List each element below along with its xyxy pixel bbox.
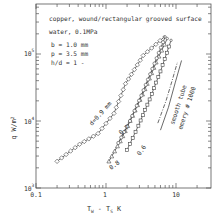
label-d09: d=0.9 mm [88,100,113,127]
data-point-triangle-marker [113,149,117,153]
data-point-square-marker [165,51,168,54]
data-point-circle-marker [151,67,154,70]
data-point-square-marker [134,130,137,133]
series-0-6 [126,39,173,151]
x-axis-label: TW - TS K [87,205,122,214]
x-tick-0.1: 0.1 [30,191,42,199]
boiling-curve-chart: 0.1 1 10 10 3 10 4 10 5 TW - TS K q W/m2… [0,0,216,218]
data-point-diamond-marker [87,137,91,141]
data-point-circle-marker [159,46,162,49]
data-point-diamond-marker [126,77,130,81]
data-point-square-marker [152,87,155,90]
data-point-circle-marker [142,89,145,92]
data-point-diamond-marker [123,82,127,86]
data-point-circle-marker [161,41,164,44]
param-b: b = 1.0 mm [51,41,89,48]
svg-text:3: 3 [32,183,35,188]
param-hd: h/d = 1 - [51,59,85,66]
chart-title: copper, wound/rectangular grooved surfac… [49,15,202,23]
data-point-circle-marker [157,51,160,54]
y-tick-10e5: 10 5 [24,48,35,58]
x-tick-10: 10 [172,191,180,199]
data-point-square-marker [126,148,129,151]
label-06: 0.6 [135,143,147,156]
data-point-triangle-marker [110,154,114,158]
data-point-circle-marker [149,73,152,76]
data-point-square-marker [144,108,147,111]
data-point-circle-marker [131,114,134,117]
data-point-square-marker [150,92,153,95]
data-point-square-marker [161,64,164,67]
data-point-circle-marker [144,83,147,86]
svg-text:5: 5 [32,48,35,53]
data-point-circle-marker [117,141,120,144]
svg-text:4: 4 [32,116,35,121]
data-point-square-marker [159,70,162,73]
data-point-diamond-marker [135,63,139,67]
x-tick-1: 1 [103,191,107,199]
data-point-diamond-marker [132,67,136,71]
data-point-circle-marker [137,99,140,102]
data-point-square-marker [148,98,151,101]
data-point-diamond-marker [82,139,86,143]
data-point-square-marker [131,136,134,139]
data-point-circle-marker [135,104,138,107]
data-point-circle-marker [146,78,149,81]
data-point-diamond-marker [114,105,118,109]
data-point-square-marker [157,75,160,78]
data-point-diamond-marker [129,72,133,76]
data-point-circle-marker [120,136,123,139]
data-point-square-marker [128,142,131,145]
data-point-square-marker [146,103,149,106]
y-tick-10e4: 10 4 [24,116,35,126]
data-point-circle-marker [128,119,131,122]
data-point-diamond-marker [119,93,123,97]
data-point-square-marker [163,57,166,60]
data-point-square-marker [139,119,142,122]
data-point-square-marker [155,81,158,84]
data-point-diamond-marker [91,134,95,138]
data-point-circle-marker [155,57,158,60]
data-point-diamond-marker [116,99,120,103]
y-axis-label: q W/m2 [10,116,19,139]
data-point-circle-marker [153,62,156,65]
data-point-circle-marker [140,94,143,97]
data-point-square-marker [141,114,144,117]
data-point-square-marker [137,124,140,127]
data-point-diamond-marker [138,58,142,62]
data-point-square-marker [167,45,170,48]
chart-subtitle: water, 0.1MPa [49,28,98,35]
param-p: p = 3.5 mm [51,50,89,58]
data-point-diamond-marker [121,87,125,91]
data-point-circle-marker [133,109,136,112]
